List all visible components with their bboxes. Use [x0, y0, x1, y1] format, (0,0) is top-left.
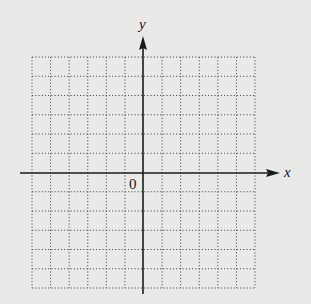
x-axis-label: x [284, 165, 291, 180]
x-axis [20, 169, 280, 177]
coordinate-plane: y x 0 [0, 0, 311, 304]
y-axis-arrow-icon [139, 36, 147, 50]
x-axis-arrow-icon [266, 169, 280, 177]
origin-label: 0 [129, 177, 137, 192]
y-axis [139, 36, 147, 294]
grid-svg [0, 0, 311, 304]
y-axis-label: y [139, 17, 146, 32]
